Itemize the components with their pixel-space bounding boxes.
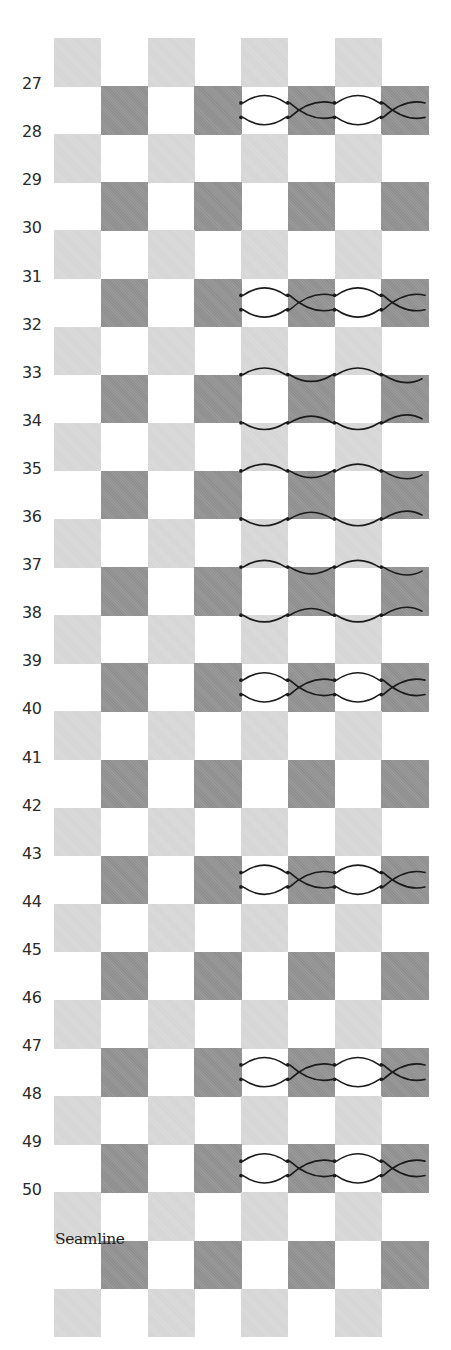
stitch-point-dot <box>333 101 337 105</box>
stitch-point-dot <box>333 517 337 521</box>
stitch-curve <box>337 464 380 471</box>
stitch-point-dot <box>239 373 243 377</box>
stitch-point-dot <box>239 517 243 521</box>
stitch-curve <box>337 615 380 622</box>
stitch-curve <box>243 865 286 872</box>
stitch-curve <box>290 872 333 887</box>
stitch-point-dot <box>239 115 243 119</box>
stitch-point-dot <box>333 885 337 889</box>
stitch-curves-overlay <box>0 0 451 1350</box>
stitch-curve <box>243 368 286 375</box>
stitch-curve <box>243 560 286 567</box>
stitch-curve <box>383 102 425 117</box>
stitch-curve <box>337 288 380 295</box>
stitch-curve <box>383 103 425 118</box>
stitch-point-dot <box>333 871 337 875</box>
stitch-curve <box>243 1058 286 1065</box>
stitch-point-dot <box>239 613 243 617</box>
stitch-point-dot <box>333 115 337 119</box>
stitch-curve <box>337 865 380 872</box>
stitch-curve <box>337 887 380 894</box>
stitch-curve <box>337 1058 380 1065</box>
seam-chart-page: 2728293031323334353637383940414243444546… <box>0 0 451 1350</box>
stitch-point-dot <box>239 885 243 889</box>
stitch-point-dot <box>239 1063 243 1067</box>
stitch-curve <box>290 1065 333 1080</box>
stitch-curve <box>383 567 422 575</box>
stitch-curve <box>243 310 286 317</box>
stitch-curve <box>290 680 333 695</box>
stitch-curve <box>383 471 422 479</box>
stitch-point-dot <box>239 678 243 682</box>
stitch-point-dot <box>333 421 337 425</box>
stitch-point-dot <box>333 613 337 617</box>
stitch-curve <box>383 1161 425 1176</box>
stitch-curve <box>383 607 422 615</box>
stitch-curve <box>337 1176 380 1183</box>
stitch-curve <box>290 608 333 615</box>
stitch-point-dot <box>239 1077 243 1081</box>
stitch-curve <box>383 294 425 309</box>
stitch-point-dot <box>239 871 243 875</box>
stitch-curve <box>383 872 425 887</box>
stitch-curve <box>290 679 333 694</box>
stitch-point-dot <box>333 678 337 682</box>
stitch-curve <box>290 471 333 478</box>
stitch-curve <box>337 1079 380 1086</box>
stitch-curve <box>290 294 333 309</box>
stitch-point-dot <box>239 308 243 312</box>
stitch-curve <box>243 519 286 526</box>
stitch-point-dot <box>333 693 337 697</box>
stitch-curve <box>383 873 425 888</box>
stitch-curve <box>290 567 333 574</box>
stitch-curve <box>383 415 422 423</box>
stitch-curve <box>290 873 333 888</box>
stitch-curve <box>383 1064 425 1079</box>
stitch-point-dot <box>239 469 243 473</box>
stitch-point-dot <box>239 565 243 569</box>
stitch-point-dot <box>333 1063 337 1067</box>
stitch-curve <box>383 511 422 519</box>
stitch-curve <box>243 96 286 103</box>
stitch-curve <box>337 423 380 430</box>
stitch-curve <box>243 1079 286 1086</box>
stitch-curve <box>337 117 380 124</box>
stitch-point-dot <box>239 1159 243 1163</box>
stitch-curve <box>337 519 380 526</box>
stitch-point-dot <box>239 1174 243 1178</box>
stitch-curve <box>337 368 380 375</box>
stitch-curve <box>243 887 286 894</box>
stitch-point-dot <box>333 1077 337 1081</box>
stitch-curve <box>383 1160 425 1175</box>
stitch-curve <box>243 464 286 471</box>
stitch-curve <box>290 1160 333 1175</box>
stitch-curve <box>383 1065 425 1080</box>
stitch-curve <box>290 375 333 382</box>
stitch-curve <box>243 288 286 295</box>
stitch-curve <box>243 615 286 622</box>
stitch-curve <box>290 1064 333 1079</box>
stitch-curve <box>383 680 425 695</box>
stitch-curve <box>383 679 425 694</box>
stitch-curve <box>337 310 380 317</box>
stitch-curve <box>383 375 422 383</box>
stitch-curve <box>290 1161 333 1176</box>
stitch-curve <box>337 673 380 680</box>
stitch-point-dot <box>333 565 337 569</box>
stitch-curve <box>290 512 333 519</box>
stitch-curve <box>243 117 286 124</box>
stitch-curve <box>243 673 286 680</box>
stitch-point-dot <box>333 293 337 297</box>
stitch-curve <box>243 1154 286 1161</box>
stitch-curve <box>243 423 286 430</box>
stitch-curve <box>337 695 380 702</box>
stitch-point-dot <box>333 1159 337 1163</box>
stitch-point-dot <box>239 293 243 297</box>
stitch-curve <box>383 295 425 310</box>
stitch-curve <box>337 560 380 567</box>
stitch-curve <box>290 295 333 310</box>
stitch-curve <box>243 695 286 702</box>
stitch-curve <box>290 102 333 117</box>
stitch-curve <box>337 96 380 103</box>
stitch-curve <box>290 103 333 118</box>
